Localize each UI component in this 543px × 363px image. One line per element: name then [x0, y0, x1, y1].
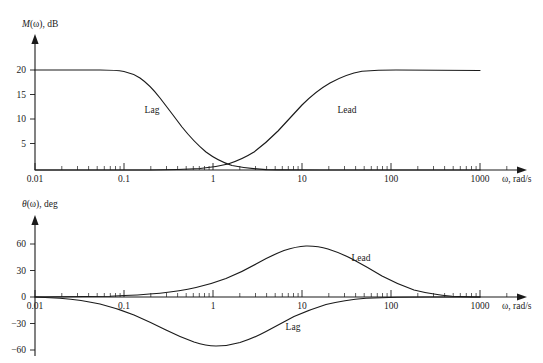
magnitude-y-tick-label-10: 10 [17, 114, 27, 124]
phase-y-axis-arrow [31, 215, 38, 225]
magnitude-x-tick-label-0.01: 0.01 [27, 174, 44, 184]
phase-curve-lead [35, 246, 480, 297]
bode-plot-figure: M(ω), dB 5 10 15 20 [0, 0, 543, 363]
phase-curve-lag [35, 297, 480, 346]
phase-x-tick-label-0.01: 0.01 [27, 301, 44, 311]
magnitude-x-tick-label-100: 100 [384, 174, 399, 184]
phase-x-tick-label-1000: 1000 [471, 301, 490, 311]
magnitude-plot: M(ω), dB 5 10 15 20 [17, 19, 532, 184]
phase-y-axis-label: θ(ω), deg [22, 199, 58, 210]
phase-y-tick-label-neg60: −60 [11, 345, 26, 355]
phase-curve-label-lead: Lead [352, 253, 371, 263]
magnitude-y-axis-label: M(ω), dB [21, 19, 58, 30]
magnitude-curve-lead [35, 70, 480, 170]
magnitude-y-tick-label-5: 5 [21, 139, 26, 149]
magnitude-curve-label-lag: Lag [145, 105, 160, 115]
phase-x-axis-arrow [517, 293, 527, 300]
magnitude-x-axis-arrow [517, 166, 527, 173]
magnitude-x-tick-label-1000: 1000 [471, 174, 490, 184]
phase-y-tick-label-60: 60 [17, 239, 27, 249]
phase-y-tick-label-0: 0 [21, 292, 26, 302]
phase-x-tick-label-100: 100 [384, 301, 399, 311]
magnitude-x-tick-label-1: 1 [211, 174, 216, 184]
phase-y-tick-label-30: 30 [17, 266, 27, 276]
bode-plot-svg: M(ω), dB 5 10 15 20 [0, 0, 543, 363]
phase-x-tick-label-10: 10 [297, 301, 307, 311]
magnitude-y-ticks [30, 70, 35, 144]
phase-curve-label-lag: Lag [286, 322, 301, 332]
magnitude-curve-lag [35, 70, 480, 170]
magnitude-x-tick-label-10: 10 [297, 174, 307, 184]
phase-plot: θ(ω), deg 60 30 0 −30 −60 [11, 199, 532, 356]
phase-y-tick-label-neg30: −30 [11, 319, 26, 329]
magnitude-y-tick-label-20: 20 [17, 65, 27, 75]
magnitude-x-axis-label: ω, rad/s [502, 174, 532, 184]
magnitude-y-tick-label-15: 15 [17, 90, 27, 100]
phase-y-ticks [30, 244, 35, 350]
magnitude-y-axis-arrow [31, 34, 38, 44]
phase-x-axis-label: ω, rad/s [502, 301, 532, 311]
magnitude-curve-label-lead: Lead [338, 105, 357, 115]
phase-x-tick-label-1: 1 [211, 301, 216, 311]
magnitude-x-tick-label-0.1: 0.1 [118, 174, 130, 184]
